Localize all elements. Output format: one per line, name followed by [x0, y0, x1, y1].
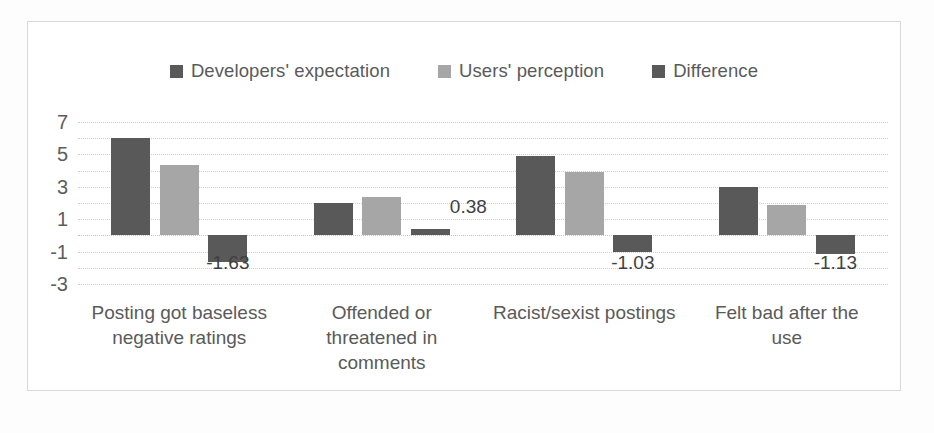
data-label: -1.63 [206, 252, 249, 274]
x-axis-category-line: Posting got baseless [78, 300, 281, 325]
x-axis-category-line: threatened in [281, 325, 484, 350]
x-axis-category-line: negative ratings [78, 325, 281, 350]
x-axis-category-label: Posting got baselessnegative ratings [78, 300, 281, 350]
legend-item-users-perception[interactable]: Users' perception [438, 60, 604, 82]
gridline [78, 154, 888, 155]
data-label: 0.38 [450, 196, 487, 218]
x-axis-category-label: Offended orthreatened incomments [281, 300, 484, 375]
gridline [78, 138, 888, 139]
y-axis-tick-label: -1 [26, 240, 68, 263]
data-label: -1.03 [611, 252, 654, 274]
gridline [78, 268, 888, 269]
zero-line [78, 235, 888, 236]
legend-item-difference[interactable]: Difference [652, 60, 758, 82]
bar[interactable] [816, 235, 855, 253]
x-axis-category-label: Felt bad after theuse [686, 300, 889, 350]
legend-label: Users' perception [459, 60, 604, 82]
bar[interactable] [111, 138, 150, 235]
gridline [78, 122, 888, 123]
gridline [78, 284, 888, 285]
x-axis-category-labels: Posting got baselessnegative ratingsOffe… [78, 300, 888, 385]
chart-figure: Developers' expectation Users' perceptio… [0, 0, 934, 433]
y-axis-tick-label: 1 [26, 208, 68, 231]
legend-swatch-icon [652, 65, 665, 78]
y-axis-tick-label: 7 [26, 111, 68, 134]
legend-label: Difference [673, 60, 758, 82]
gridline [78, 187, 888, 188]
legend-swatch-icon [438, 65, 451, 78]
gridline [78, 171, 888, 172]
bar[interactable] [314, 203, 353, 235]
gridline [78, 252, 888, 253]
bar[interactable] [719, 187, 758, 236]
plot-area: 7531-1-3 -1.630.38-1.03-1.13 [78, 122, 888, 284]
x-axis-category-label: Racist/sexist postings [483, 300, 686, 325]
y-axis-tick-label: 3 [26, 175, 68, 198]
bar[interactable] [613, 235, 652, 252]
x-axis-category-line: Racist/sexist postings [483, 300, 686, 325]
x-axis-category-line: Felt bad after the [686, 300, 889, 325]
x-axis-category-line: comments [281, 350, 484, 375]
x-axis-category-line: use [686, 325, 889, 350]
y-axis-tick-label: -3 [26, 273, 68, 296]
y-axis-tick-label: 5 [26, 143, 68, 166]
bar[interactable] [411, 229, 450, 235]
bar[interactable] [516, 156, 555, 236]
bar[interactable] [160, 165, 199, 236]
bar[interactable] [565, 172, 604, 235]
legend-swatch-icon [170, 65, 183, 78]
bar[interactable] [362, 197, 401, 236]
chart-legend: Developers' expectation Users' perceptio… [27, 56, 901, 86]
bar[interactable] [767, 205, 806, 235]
legend-item-developers-expectation[interactable]: Developers' expectation [170, 60, 390, 82]
x-axis-category-line: Offended or [281, 300, 484, 325]
data-label: -1.13 [814, 252, 857, 274]
legend-label: Developers' expectation [191, 60, 390, 82]
